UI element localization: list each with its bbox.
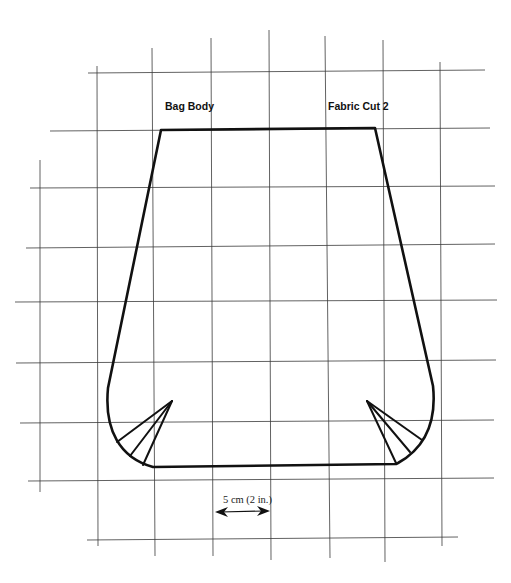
left-dart [117,401,172,465]
scale-label: 5 cm (2 in.) [223,494,272,505]
scale-arrow [215,506,270,517]
pattern-diagram: Bag Body Fabric Cut 2 5 cm (2 in.) [0,0,511,583]
right-dart [367,401,422,463]
grid [15,30,497,562]
cut-instruction: Fabric Cut 2 [328,100,389,112]
pattern-title: Bag Body [165,100,214,112]
